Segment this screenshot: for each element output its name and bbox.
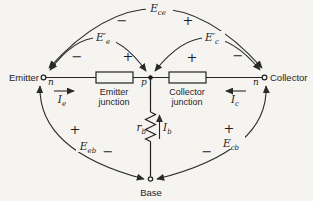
base-label: Base xyxy=(140,187,162,198)
collector-junction-line1: Collector xyxy=(169,87,205,97)
ecb-plus-sign: + xyxy=(224,121,235,136)
emitter-junction-box xyxy=(96,72,133,83)
collector-terminal xyxy=(262,75,267,80)
ecp-minus-sign: − xyxy=(233,48,244,63)
collector-junction-box xyxy=(169,72,206,83)
collector-junction-line2: junction xyxy=(170,97,202,107)
ece-minus-sign: − xyxy=(117,13,128,28)
ecp-plus-sign: + xyxy=(187,50,198,65)
emitter-junction-line1: Emitter xyxy=(100,87,129,97)
collector-n-label: n xyxy=(253,77,259,87)
eep-plus-sign: + xyxy=(123,49,134,64)
collector-label: Collector xyxy=(270,72,308,83)
ecb-minus-sign: − xyxy=(202,144,213,159)
emitter-terminal xyxy=(41,75,46,80)
circuit-diagram: Emitter Collector Base n n p Emitter jun… xyxy=(0,0,313,201)
emitter-label: Emitter xyxy=(9,72,39,83)
p-node xyxy=(148,75,153,80)
eeb-minus-sign: − xyxy=(103,144,114,159)
emitter-junction-line2: junction xyxy=(97,97,129,107)
p-label: p xyxy=(141,77,147,87)
base-terminal xyxy=(148,177,152,181)
emitter-n-label: n xyxy=(48,77,54,87)
eep-minus-sign: − xyxy=(72,49,83,64)
paper-background xyxy=(0,0,313,201)
ece-plus-sign: + xyxy=(183,13,194,28)
eeb-plus-sign: + xyxy=(70,122,81,137)
